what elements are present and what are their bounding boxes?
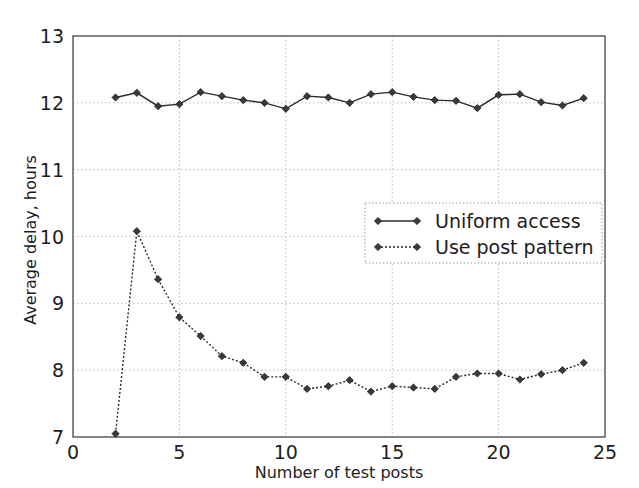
x-axis-title: Number of test posts — [255, 463, 424, 482]
data-point-marker — [452, 97, 459, 104]
data-point-marker — [495, 370, 502, 377]
legend-label: Use post pattern — [435, 236, 593, 258]
data-point-marker — [410, 384, 417, 391]
data-point-marker — [155, 276, 162, 283]
data-point-marker — [389, 383, 396, 390]
data-point-marker — [367, 388, 374, 395]
data-point-marker — [474, 105, 481, 112]
y-tick-label: 10 — [40, 226, 64, 248]
data-point-marker — [261, 99, 268, 106]
legend-label: Uniform access — [435, 210, 581, 232]
line-chart: 0510152025 78910111213 Uniform accessUse… — [0, 0, 639, 488]
chart-legend[interactable]: Uniform accessUse post pattern — [365, 203, 602, 263]
data-point-marker — [303, 385, 310, 392]
data-point-marker — [240, 359, 247, 366]
data-point-marker — [112, 430, 119, 437]
y-tick-label: 9 — [52, 292, 64, 314]
data-point-marker — [580, 95, 587, 102]
data-point-marker — [325, 383, 332, 390]
data-point-marker — [176, 314, 183, 321]
x-tick-label: 25 — [593, 441, 617, 463]
data-point-marker — [367, 91, 374, 98]
data-point-marker — [282, 373, 289, 380]
x-axis-tick-labels: 0510152025 — [67, 441, 617, 463]
x-tick-label: 5 — [173, 441, 185, 463]
data-point-marker — [176, 101, 183, 108]
y-axis-tick-labels: 78910111213 — [40, 25, 64, 448]
data-point-marker — [346, 377, 353, 384]
data-point-marker — [538, 371, 545, 378]
data-point-marker — [261, 373, 268, 380]
data-point-marker — [431, 385, 438, 392]
data-point-marker — [155, 103, 162, 110]
x-tick-label: 10 — [274, 441, 298, 463]
data-point-marker — [112, 94, 119, 101]
y-axis-title: Average delay, hours — [21, 155, 40, 325]
data-point-marker — [538, 99, 545, 106]
x-tick-label: 15 — [380, 441, 404, 463]
y-tick-label: 8 — [52, 359, 64, 381]
data-point-marker — [303, 93, 310, 100]
data-point-marker — [516, 91, 523, 98]
data-point-marker — [218, 93, 225, 100]
data-point-marker — [452, 373, 459, 380]
data-point-marker — [282, 105, 289, 112]
y-tick-label: 12 — [40, 92, 64, 114]
data-point-marker — [325, 94, 332, 101]
data-point-marker — [133, 228, 140, 235]
y-tick-label: 11 — [40, 159, 64, 181]
data-point-marker — [197, 89, 204, 96]
data-point-marker — [559, 102, 566, 109]
x-tick-label: 20 — [487, 441, 511, 463]
data-point-marker — [559, 367, 566, 374]
chart-figure: 0510152025 78910111213 Uniform accessUse… — [0, 0, 639, 488]
series-1 — [112, 89, 587, 113]
y-tick-label: 7 — [52, 426, 64, 448]
data-point-marker — [133, 89, 140, 96]
data-point-marker — [474, 370, 481, 377]
y-tick-label: 13 — [40, 25, 64, 47]
data-point-marker — [580, 359, 587, 366]
data-point-marker — [495, 91, 502, 98]
x-tick-label: 0 — [67, 441, 79, 463]
data-point-marker — [410, 93, 417, 100]
data-point-marker — [516, 376, 523, 383]
data-point-marker — [389, 89, 396, 96]
data-point-marker — [346, 99, 353, 106]
